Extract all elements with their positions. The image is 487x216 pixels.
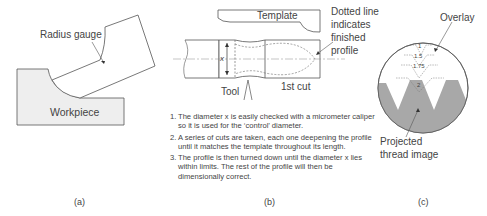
caption-a: (a) [74, 197, 85, 207]
dotted-line-label-1: Dotted line [331, 6, 379, 18]
note-item: 2. A series of cuts are taken, each one … [170, 133, 375, 151]
dotted-line-label-2: indicates [331, 19, 370, 31]
tool-shape [244, 80, 252, 100]
dotted-line-label-3: finished [331, 32, 365, 44]
template-label: Template [257, 10, 298, 22]
overlay-label: Overlay [440, 12, 474, 24]
pitch-label-2: 2 [417, 79, 420, 91]
note-item: 3. The profile is then turned down until… [170, 153, 375, 181]
first-cut-label: 1st cut [281, 81, 310, 93]
pitch-label-1-75: 1.75 [413, 60, 425, 72]
caption-b: (b) [264, 197, 275, 207]
caption-c: (c) [418, 197, 429, 207]
radius-gauge-label: Radius gauge [40, 29, 102, 41]
dimension-x-label: x [220, 53, 224, 65]
projected-label-2: thread image [380, 149, 438, 161]
note-item: 1. The diameter x is easily checked with… [170, 112, 375, 130]
workpiece-label: Workpiece [50, 106, 99, 118]
dotted-line-label-4: profile [331, 45, 358, 57]
radius-gauge-shape [52, 15, 155, 98]
tool-label: Tool [221, 86, 239, 98]
projected-label-1: Projected [380, 136, 422, 148]
notes-list: 1. The diameter x is easily checked with… [170, 112, 375, 183]
